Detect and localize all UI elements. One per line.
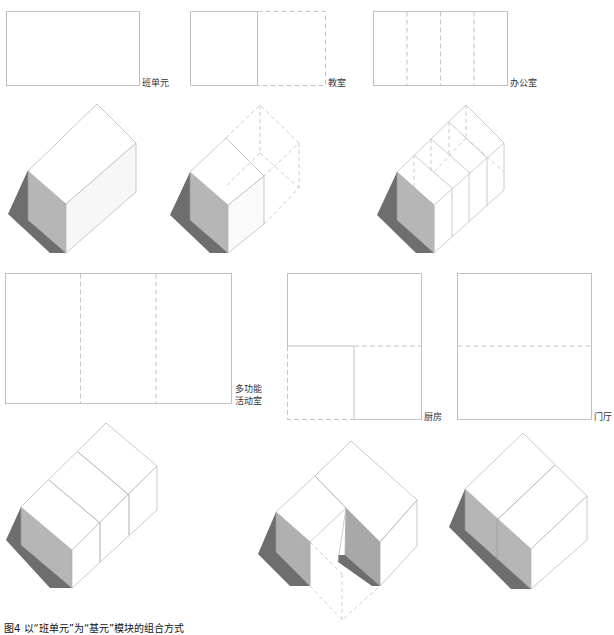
figure-caption: 图4 以“班单元”为“基元”模块的组合方式 — [4, 620, 184, 635]
